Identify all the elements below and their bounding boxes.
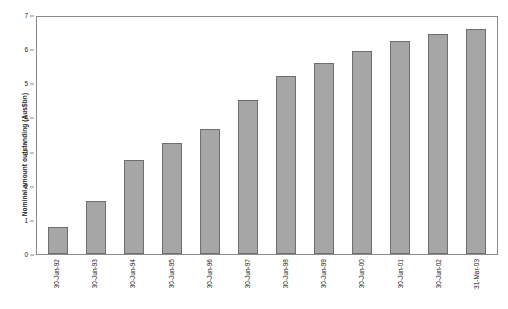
bar-slot	[191, 17, 229, 254]
bar-slot	[419, 17, 457, 254]
bar-slot	[39, 17, 77, 254]
bar	[276, 76, 296, 254]
bar-slot	[343, 17, 381, 254]
bar-chart: Nominal amount outstanding (Aus$bn) 0123…	[0, 0, 508, 309]
y-axis-tick-mark	[30, 50, 34, 51]
y-axis-tick-mark	[30, 220, 34, 221]
y-axis-tick-label: 6	[24, 47, 28, 54]
x-axis-tick-slot: 30-Jun-99	[305, 257, 343, 309]
x-axis-tick-label-text: 30-Jun-96	[207, 259, 214, 288]
x-axis-tick-slot: 30-Jun-98	[267, 257, 305, 309]
x-axis-tick-label: 30-Jun-97	[248, 230, 255, 259]
x-axis-tick-label: 30-Jun-01	[401, 230, 408, 259]
bar-slot	[229, 17, 267, 254]
x-axis-tick-label: 30-Jun-99	[324, 230, 331, 259]
x-axis-tick-label: 30-Jun-00	[362, 230, 369, 259]
bars-layer	[37, 17, 497, 254]
y-axis-tick-mark	[30, 16, 34, 17]
x-axis-tick-label-text: 30-Jun-97	[245, 259, 252, 288]
bar	[390, 41, 410, 254]
x-axis-tick-slot: 30-Jun-02	[420, 257, 458, 309]
y-axis-tick-mark	[30, 84, 34, 85]
x-axis-tick-label-text: 30-Jun-00	[359, 259, 366, 288]
y-axis-tick-label: 7	[24, 13, 28, 20]
x-axis-tick-slot: 30-Jun-95	[153, 257, 191, 309]
bar-slot	[305, 17, 343, 254]
bar-slot	[457, 17, 495, 254]
bar	[314, 63, 334, 254]
bar	[466, 29, 486, 254]
y-axis-tick-mark	[30, 186, 34, 187]
bar-slot	[77, 17, 115, 254]
x-axis-tick-slot: 30-Jun-94	[114, 257, 152, 309]
bar-slot	[381, 17, 419, 254]
x-axis-tick-label: 31-Mar-03	[477, 229, 484, 259]
x-axis-tick-slot: 30-Jun-97	[229, 257, 267, 309]
x-axis-tick-label: 30-Jun-93	[95, 230, 102, 259]
y-axis-tick-label: 1	[24, 218, 28, 225]
bar-slot	[153, 17, 191, 254]
y-axis-tick-mark	[30, 152, 34, 153]
x-axis-tick-labels: 30-Jun-9230-Jun-9330-Jun-9430-Jun-9530-J…	[36, 257, 498, 309]
y-axis-tick-labels: 01234567	[0, 16, 34, 255]
x-axis-tick-label-text: 30-Jun-01	[397, 259, 404, 288]
plot-area	[36, 16, 498, 255]
y-axis-tick-label: 5	[24, 81, 28, 88]
y-axis-tick-mark	[30, 255, 34, 256]
bar	[352, 51, 372, 254]
x-axis-tick-label: 30-Jun-92	[57, 230, 64, 259]
x-axis-tick-slot: 30-Jun-00	[343, 257, 381, 309]
x-axis-tick-label: 30-Jun-96	[210, 230, 217, 259]
x-axis-tick-slot: 30-Jun-93	[76, 257, 114, 309]
x-axis-tick-slot: 31-Mar-03	[458, 257, 496, 309]
x-axis-tick-label: 30-Jun-02	[439, 230, 446, 259]
y-axis-tick-label: 3	[24, 149, 28, 156]
x-axis-tick-label-text: 30-Jun-92	[54, 259, 61, 288]
y-axis-tick-mark	[30, 118, 34, 119]
x-axis-tick-label: 30-Jun-98	[286, 230, 293, 259]
y-axis-tick-label: 0	[24, 252, 28, 259]
x-axis-tick-slot: 30-Jun-01	[382, 257, 420, 309]
y-axis-tick-label: 2	[24, 183, 28, 190]
y-axis-tick-label: 4	[24, 115, 28, 122]
x-axis-tick-label-text: 30-Jun-99	[321, 259, 328, 288]
x-axis-tick-label: 30-Jun-95	[172, 230, 179, 259]
x-axis-tick-label-text: 30-Jun-98	[283, 259, 290, 288]
x-axis-tick-slot: 30-Jun-92	[38, 257, 76, 309]
x-axis-tick-label-text: 30-Jun-95	[168, 259, 175, 288]
x-axis-tick-label-text: 30-Jun-02	[436, 259, 443, 288]
bar-slot	[267, 17, 305, 254]
bar	[428, 34, 448, 254]
x-axis-tick-label: 30-Jun-94	[133, 230, 140, 259]
x-axis-tick-slot: 30-Jun-96	[191, 257, 229, 309]
bar-slot	[115, 17, 153, 254]
x-axis-tick-label-text: 31-Mar-03	[474, 259, 481, 289]
x-axis-tick-label-text: 30-Jun-93	[92, 259, 99, 288]
x-axis-tick-label-text: 30-Jun-94	[130, 259, 137, 288]
